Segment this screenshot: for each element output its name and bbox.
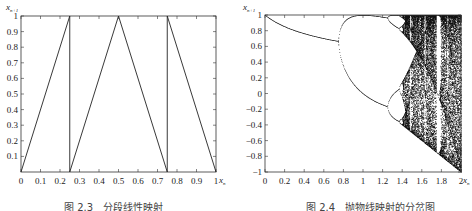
y-tick-label: 0.4	[7, 105, 19, 115]
y-tick-label: 0.5	[7, 89, 19, 99]
y-tick-label: 0.3	[7, 120, 19, 130]
x-tick-label: 1	[361, 176, 366, 186]
y-tick-label: 0.2	[251, 73, 262, 83]
x-tick-label: 0.7	[152, 176, 164, 186]
x-tick-label: 0.6	[132, 176, 144, 186]
x-tick-label: 0.6	[318, 176, 330, 186]
y-tick-label: 0.8	[7, 42, 19, 52]
y-tick-label: 0.8	[251, 26, 263, 36]
x-tick-label: 1.4	[397, 176, 409, 186]
y-tick-label: 0.4	[251, 57, 263, 67]
x-tick-label: 0.8	[171, 176, 183, 186]
x-tick-label: 0.4	[299, 176, 311, 186]
piecewise-line	[21, 16, 216, 172]
x-tick-label: 0	[263, 176, 268, 186]
y-tick-label: 0.7	[7, 58, 19, 68]
y-tick-label: 0.2	[7, 136, 18, 146]
y-tick-label: 0.6	[251, 41, 263, 51]
x-axis-label: xn	[218, 175, 226, 186]
x-tick-label: 0.3	[74, 176, 86, 186]
y-tick-label: 0	[258, 89, 263, 99]
figure-bifurcation-diagram: xn+1 00.20.40.60.811.21.41.61.82−1−0.8−0…	[236, 0, 472, 211]
x-tick-label: 0.2	[279, 176, 290, 186]
chart-piecewise-linear: xn+1 00.10.20.30.40.50.60.70.80.910.10.2…	[0, 0, 236, 211]
x-tick-label: 0.1	[35, 176, 46, 186]
y-tick-label: 1	[14, 11, 19, 21]
chart-bifurcation: xn+1 00.20.40.60.811.21.41.61.82−1−0.8−0…	[236, 0, 472, 211]
y-tick-label: 0.1	[7, 151, 18, 161]
x-tick-label: 1.6	[416, 176, 428, 186]
figure-piecewise-linear-map: xn+1 00.10.20.30.40.50.60.70.80.910.10.2…	[0, 0, 236, 211]
y-axis-label: xn+1	[242, 2, 255, 13]
x-tick-label: 1.2	[377, 176, 388, 186]
y-tick-label: −1	[252, 167, 262, 177]
x-tick-label: 1	[214, 176, 219, 186]
x-tick-label: 0.4	[93, 176, 105, 186]
y-tick-label: −0.2	[246, 104, 262, 114]
figure-caption: 图 2.3 分段线性映射	[64, 199, 163, 211]
x-tick-label: 0.9	[191, 176, 203, 186]
plot-frame	[21, 16, 216, 172]
figure-caption: 图 2.4 抛物线映射的分岔图	[306, 199, 435, 211]
x-tick-label: 1.8	[436, 176, 448, 186]
y-tick-label: 1	[258, 10, 263, 20]
y-tick-label: −0.4	[246, 120, 263, 130]
x-tick-label: 0.8	[338, 176, 350, 186]
y-tick-label: −0.6	[246, 136, 263, 146]
x-axis-label: xn	[462, 175, 470, 186]
x-tick-label: 0.2	[54, 176, 65, 186]
y-tick-label: −0.8	[246, 151, 263, 161]
x-tick-label: 0.5	[113, 176, 125, 186]
y-tick-label: 0.6	[7, 73, 19, 83]
x-tick-label: 0	[19, 176, 24, 186]
y-tick-label: 0.9	[7, 27, 19, 37]
bifurcation-points	[265, 15, 462, 173]
